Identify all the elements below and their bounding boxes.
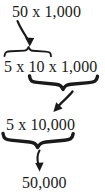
curved-arrow-down-right-icon — [18, 21, 35, 47]
curly-brace-up-icon — [5, 47, 52, 56]
curly-brace-down-icon — [3, 134, 73, 148]
curly-brace-down-icon — [30, 76, 98, 89]
curved-arrow-down-left-icon — [53, 92, 72, 113]
math-decomposition-diagram: 50 x 1,000 5 x 10 x 1,000 5 x 10,000 50,… — [0, 0, 105, 196]
connector-layer — [0, 0, 105, 196]
curved-arrow-down-icon — [35, 151, 43, 172]
